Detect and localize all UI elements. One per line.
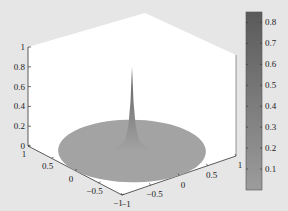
colorbar-tick-label: 0.6: [265, 59, 277, 69]
z-tick-label: 0.8: [14, 62, 26, 72]
z-tick-label: 0.4: [14, 101, 26, 111]
z-tick-label: 1: [21, 42, 26, 52]
colorbar: [246, 12, 262, 190]
colorbar-tick-label: 0.2: [265, 143, 276, 153]
x-tick-label: −0.5: [146, 189, 163, 199]
colorbar-tick-label: 0.3: [265, 122, 277, 132]
colorbar-tick-label: 0.4: [265, 101, 277, 111]
colorbar-tick-label: 0.8: [265, 17, 277, 27]
x-tick-label: −1: [121, 199, 131, 209]
z-tick-label: 0.6: [14, 82, 26, 92]
colorbar-tick-label: 0.1: [265, 164, 276, 174]
x-tick-label: 0: [181, 180, 186, 190]
y-tick-label: 0.5: [42, 161, 54, 171]
colorbar-tick-label: 0.5: [265, 80, 277, 90]
y-tick-label: 1: [22, 149, 27, 159]
y-tick-label: −0.5: [86, 186, 103, 196]
surface-figure: 00.20.40.60.8110.50−0.5−1−1−0.500.51 0.1…: [0, 0, 288, 211]
z-tick-label: 0.2: [14, 121, 25, 131]
x-tick-label: 1: [238, 160, 243, 170]
x-tick-label: 0.5: [206, 170, 218, 180]
y-tick-label: 0: [69, 174, 74, 184]
colorbar-tick-label: 0.7: [265, 38, 277, 48]
